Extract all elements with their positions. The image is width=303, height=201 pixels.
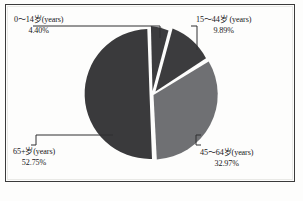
pie-label-0-14: 0～14岁(years) 4.40% xyxy=(14,15,63,36)
pie-label-0-14-category: 0～14岁(years) xyxy=(14,15,63,26)
pie-label-15-44-category: 15～44岁 (years) xyxy=(196,15,251,26)
pie-label-65-plus-percent: 52.75% xyxy=(13,158,55,169)
figure-container: 0～14岁(years) 4.40% 15～44岁 (years) 9.89% … xyxy=(0,0,303,201)
figure-caption-clipped xyxy=(0,189,303,201)
pie-slices xyxy=(85,26,218,160)
pie-label-15-44-percent: 9.89% xyxy=(196,26,251,37)
leader-line-65-plus xyxy=(31,135,36,145)
pie-label-45-64-percent: 32.97% xyxy=(200,159,253,170)
pie-label-0-14-percent: 4.40% xyxy=(14,26,63,37)
pie-label-45-64: 45～64岁(years) 32.97% xyxy=(200,148,253,169)
pie-label-15-44: 15～44岁 (years) 9.89% xyxy=(196,15,251,36)
pie-label-65-plus-category: 65+岁(years) xyxy=(13,147,55,158)
pie-label-65-plus: 65+岁(years) 52.75% xyxy=(13,147,55,168)
pie-slice-65-plus xyxy=(85,29,152,159)
pie-label-45-64-category: 45～64岁(years) xyxy=(200,148,253,159)
